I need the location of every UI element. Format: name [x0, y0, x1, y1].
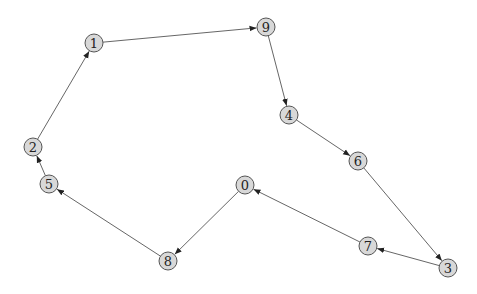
graph-canvas: 0123456789 — [0, 0, 477, 294]
node-4[interactable]: 4 — [280, 106, 298, 124]
edge-3-to-7 — [377, 249, 439, 266]
node-3[interactable]: 3 — [439, 259, 457, 277]
node-label: 6 — [354, 154, 362, 169]
edges-layer — [37, 28, 442, 266]
node-6[interactable]: 6 — [349, 152, 367, 170]
edge-5-to-2 — [37, 156, 46, 176]
node-7[interactable]: 7 — [359, 237, 377, 255]
node-8[interactable]: 8 — [159, 252, 177, 270]
node-label: 0 — [241, 178, 249, 193]
node-label: 4 — [285, 108, 293, 123]
edge-1-to-9 — [103, 28, 257, 42]
node-label: 7 — [364, 239, 372, 254]
node-label: 8 — [164, 254, 172, 269]
node-label: 1 — [90, 36, 98, 51]
node-label: 5 — [45, 177, 53, 192]
node-2[interactable]: 2 — [24, 138, 42, 156]
nodes-layer: 0123456789 — [24, 18, 457, 277]
node-label: 3 — [444, 261, 452, 276]
edge-8-to-5 — [57, 189, 160, 256]
node-label: 2 — [29, 140, 37, 155]
node-label: 9 — [262, 20, 270, 35]
node-9[interactable]: 9 — [257, 18, 275, 36]
edge-4-to-6 — [296, 120, 350, 156]
edge-9-to-4 — [268, 36, 286, 106]
edge-7-to-0 — [254, 189, 360, 242]
edge-2-to-1 — [38, 51, 90, 139]
node-1[interactable]: 1 — [85, 34, 103, 52]
node-0[interactable]: 0 — [236, 176, 254, 194]
edge-0-to-8 — [175, 191, 239, 254]
node-5[interactable]: 5 — [40, 175, 58, 193]
